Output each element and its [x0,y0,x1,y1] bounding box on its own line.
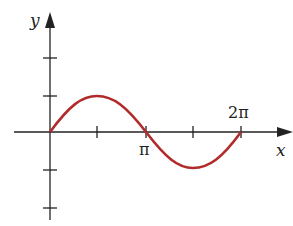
x-axis-label: x [276,140,286,160]
two-pi-tick-label: 2π [228,103,249,122]
y-axis-label: y [29,10,40,30]
x-axis-arrow-icon [277,127,293,137]
sine-chart: y x π 2π [0,0,293,226]
pi-tick-label: π [139,140,150,159]
y-axis-arrow-icon [45,12,55,28]
